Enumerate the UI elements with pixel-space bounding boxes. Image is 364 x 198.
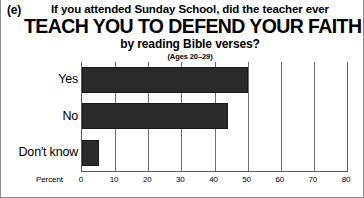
bar-don-t-know (82, 140, 99, 166)
bar-series (82, 62, 347, 171)
question-line-1: If you attended Sunday School, did the t… (24, 2, 356, 16)
x-tick-60: 60 (275, 175, 284, 184)
x-tick-20: 20 (143, 175, 152, 184)
chart-figure: (e) If you attended Sunday School, did t… (0, 0, 364, 198)
figure-border-bottom (0, 197, 364, 198)
x-tick-70: 70 (309, 175, 318, 184)
x-tick-40: 40 (209, 175, 218, 184)
x-axis-title: Percent (36, 175, 63, 184)
x-tick-80: 80 (342, 175, 351, 184)
chart-subtitle: (Ages 20–29) (24, 52, 356, 62)
category-axis-labels: YesNoDon't know (0, 62, 78, 172)
x-tick-30: 30 (176, 175, 185, 184)
panel-letter: (e) (7, 3, 21, 17)
x-tick-0: 0 (79, 175, 83, 184)
category-label-no: No (2, 109, 78, 123)
x-tick-50: 50 (242, 175, 251, 184)
chart-title-block: If you attended Sunday School, did the t… (24, 2, 356, 62)
bar-no (82, 103, 228, 129)
category-label-yes: Yes (2, 72, 78, 86)
chart-title: TEACH YOU TO DEFEND YOUR FAITH (24, 16, 356, 37)
category-label-don-t-know: Don't know (2, 145, 78, 159)
x-tick-10: 10 (110, 175, 119, 184)
plot-area (81, 62, 348, 172)
question-line-3: by reading Bible verses? (24, 37, 356, 51)
bar-yes (82, 67, 248, 93)
